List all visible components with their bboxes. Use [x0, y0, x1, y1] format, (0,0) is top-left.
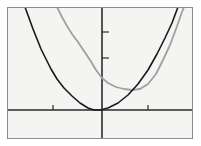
- graph-screenshot: [0, 0, 201, 146]
- plot-background: [8, 8, 192, 138]
- plot-canvas: [0, 0, 201, 146]
